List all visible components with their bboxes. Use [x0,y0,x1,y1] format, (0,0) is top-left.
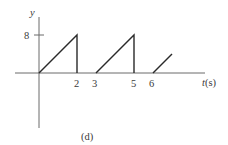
x-tick-label-5: 5 [131,78,136,89]
waveform-segment-1 [39,35,77,73]
y-axis-label: y [29,7,35,18]
waveform-segment-3 [153,54,172,73]
x-tick-label-6: 6 [149,78,154,89]
x-tick-label-3: 3 [92,78,97,89]
x-axis-unit: (s) [205,77,217,89]
chart-canvas: y 8 2 3 5 6 t(s) (d) [0,0,228,145]
x-axis-label: t(s) [202,77,217,89]
figure-caption: (d) [81,131,94,143]
waveform-segment-2 [96,35,134,73]
x-tick-label-2: 2 [74,78,79,89]
y-tick-label-8: 8 [24,30,29,41]
signal-waveform [39,35,172,73]
